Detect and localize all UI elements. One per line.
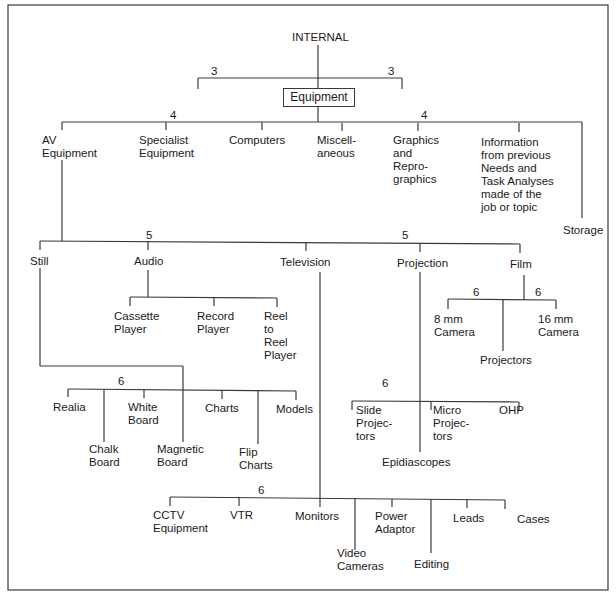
- node-audio: Audio: [134, 255, 163, 268]
- node-ohp: OHP: [499, 404, 524, 417]
- node-graphics-reprographics: Graphics and Repro- graphics: [393, 134, 439, 186]
- node-magnetic-board: Magnetic Board: [157, 443, 204, 469]
- level4-number: 4: [421, 109, 427, 122]
- node-leads: Leads: [453, 512, 484, 525]
- node-television: Television: [280, 256, 331, 269]
- node-white-board: White Board: [128, 401, 159, 427]
- root-node-internal: INTERNAL: [292, 31, 349, 44]
- still-number: 6: [118, 375, 124, 388]
- projection-number: 6: [382, 377, 388, 390]
- node-information-previous-analyses: Information from previous Needs and Task…: [481, 136, 554, 214]
- node-chalk-board: Chalk Board: [89, 443, 120, 469]
- node-micro-projectors: Micro Projec- tors: [433, 404, 469, 443]
- node-16mm-camera: 16 mm Camera: [538, 313, 579, 339]
- node-film-projectors: Projectors: [480, 354, 532, 367]
- node-av-equipment: AV Equipment: [42, 134, 97, 160]
- level4-number: 4: [170, 109, 176, 122]
- node-specialist-equipment: Specialist Equipment: [139, 134, 194, 160]
- branch-number: 3: [211, 65, 217, 78]
- node-computers: Computers: [229, 134, 285, 147]
- node-cassette-player: Cassette Player: [114, 310, 159, 336]
- node-reel-to-reel-player: Reel to Reel Player: [264, 310, 297, 362]
- node-editing: Editing: [414, 558, 449, 571]
- node-models: Models: [276, 403, 313, 416]
- television-number: 6: [258, 484, 264, 497]
- node-flip-charts: Flip Charts: [239, 446, 273, 472]
- node-still: Still: [30, 255, 49, 268]
- node-8mm-camera: 8 mm Camera: [434, 313, 475, 339]
- branch-number: 3: [388, 65, 394, 78]
- node-cases: Cases: [517, 513, 550, 526]
- node-power-adaptor: Power Adaptor: [375, 510, 415, 536]
- node-monitors: Monitors: [295, 510, 339, 523]
- node-vtr: VTR: [230, 509, 253, 522]
- node-epidiascopes: Epidiascopes: [382, 456, 450, 469]
- node-projection: Projection: [397, 257, 448, 270]
- node-charts: Charts: [205, 402, 239, 415]
- node-cctv-equipment: CCTV Equipment: [153, 509, 208, 535]
- node-storage: Storage: [563, 224, 603, 237]
- node-record-player: Record Player: [197, 310, 234, 336]
- node-miscellaneous: Miscell- aneous: [317, 134, 356, 160]
- node-video-cameras: Video Cameras: [337, 547, 384, 573]
- level5-number: 5: [146, 229, 152, 242]
- film-number: 6: [473, 286, 479, 299]
- node-slide-projectors: Slide Projec- tors: [356, 404, 392, 443]
- node-realia: Realia: [53, 401, 86, 414]
- node-film: Film: [510, 258, 532, 271]
- equipment-node: Equipment: [283, 88, 355, 107]
- level5-number: 5: [402, 229, 408, 242]
- film-number: 6: [535, 286, 541, 299]
